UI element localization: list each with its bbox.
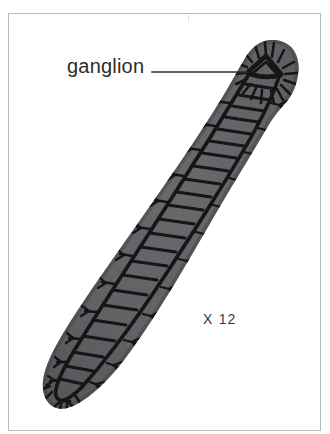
figure-page: ganglion X 12 [0, 0, 330, 434]
plate-frame [8, 13, 321, 431]
